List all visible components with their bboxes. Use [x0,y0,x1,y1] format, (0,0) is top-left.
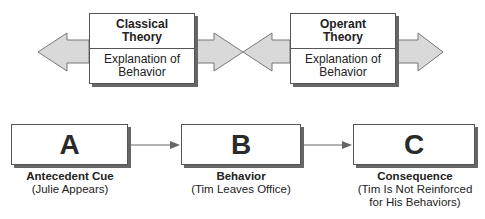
step-a-box: A [11,124,128,165]
subtitle-line: Explanation of [104,53,180,66]
arrowhead-icon [342,141,352,149]
theory-title: Operant Theory [291,14,395,49]
step-letter: A [59,129,79,161]
operant-theory-box: Operant Theory Explanation of Behavior [290,13,396,84]
subtitle-line: Behavior [104,66,180,79]
arrowhead-icon [170,141,180,149]
step-b-box: B [181,124,301,165]
title-line: Theory [320,31,366,44]
right-arrow-icon [196,33,243,71]
subtitle-line: Explanation of [305,53,381,66]
step-description: (Tim Is Not Reinforced [340,183,485,196]
step-letter: C [404,129,424,161]
step-a-label: Antecedent Cue (Julie Appears) [0,170,140,196]
step-c-label: Consequence (Tim Is Not Reinforced for H… [340,170,485,209]
theory-subtitle: Explanation of Behavior [291,48,395,83]
step-letter: B [231,129,251,161]
classical-theory-box: Classical Theory Explanation of Behavior [89,13,195,84]
step-description: for His Behaviors) [340,196,485,209]
step-title: Consequence [340,170,485,183]
right-arrow-icon [398,33,443,71]
step-title: Behavior [166,170,316,183]
left-arrow-icon [38,33,89,71]
left-arrow-icon [243,33,290,71]
step-description: (Tim Leaves Office) [166,183,316,196]
step-c-box: C [353,124,475,165]
step-b-label: Behavior (Tim Leaves Office) [166,170,316,196]
theory-subtitle: Explanation of Behavior [90,48,194,83]
theory-title: Classical Theory [90,14,194,49]
subtitle-line: Behavior [305,66,381,79]
step-title: Antecedent Cue [0,170,140,183]
title-line: Theory [116,31,168,44]
step-description: (Julie Appears) [0,183,140,196]
